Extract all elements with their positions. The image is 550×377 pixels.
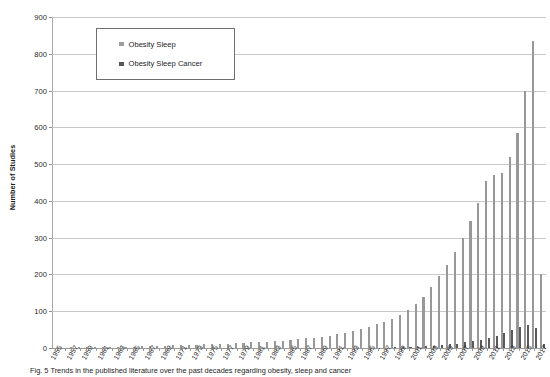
bar-obesity-sleep-2010[interactable] [485, 181, 487, 348]
figure-caption: Fig. 5 Trends in the published literatur… [30, 366, 542, 377]
bar-group-1957[interactable] [69, 17, 77, 348]
bar-group-2011[interactable] [491, 17, 499, 348]
bar-group-1984[interactable] [280, 17, 288, 348]
bar-group-1988[interactable] [311, 17, 319, 348]
bar-group-2002[interactable] [421, 17, 429, 348]
legend-item-1[interactable]: Obesity Sleep [119, 40, 234, 49]
y-tick-mark-900 [49, 17, 52, 18]
bar-group-2006[interactable] [452, 17, 460, 348]
y-tick-label-400: 400 [34, 196, 47, 205]
bar-obesity-sleep-2002[interactable] [422, 297, 424, 348]
figure-caption-text: Fig. 5 Trends in the published literatur… [30, 366, 351, 375]
bar-obesity-sleep-2006[interactable] [454, 252, 456, 348]
bar-obesity-sleep-2001[interactable] [415, 304, 417, 348]
bar-group-2012[interactable] [499, 17, 507, 348]
bar-obesity-sleep-2005[interactable] [446, 265, 448, 348]
y-tick-mark-0 [49, 348, 52, 349]
y-tick-label-500: 500 [34, 160, 47, 169]
y-axis-title: Number of Studies [2, 0, 24, 355]
y-tick-label-600: 600 [34, 123, 47, 132]
bar-obesity-sleep-2011[interactable] [493, 175, 495, 348]
y-tick-label-300: 300 [34, 233, 47, 242]
y-tick-mark-700 [49, 91, 52, 92]
bar-group-2016[interactable] [531, 17, 539, 348]
bar-group-1992[interactable] [343, 17, 351, 348]
bar-group-1985[interactable] [288, 17, 296, 348]
y-tick-label-0: 0 [43, 344, 47, 353]
bar-group-1998[interactable] [390, 17, 398, 348]
bar-group-1999[interactable] [397, 17, 405, 348]
bar-obesity-sleep-2014[interactable] [516, 133, 518, 348]
bar-group-2008[interactable] [468, 17, 476, 348]
chart-legend: Obesity SleepObesity Sleep Cancer [96, 28, 235, 80]
bar-group-2004[interactable] [437, 17, 445, 348]
bar-obesity-sleep-2012[interactable] [501, 173, 503, 348]
bar-group-1989[interactable] [319, 17, 327, 348]
bar-group-2015[interactable] [523, 17, 531, 348]
y-tick-mark-300 [49, 238, 52, 239]
y-tick-mark-400 [49, 201, 52, 202]
bar-group-2000[interactable] [405, 17, 413, 348]
bar-obesity-sleep-2004[interactable] [438, 276, 440, 348]
legend-swatch-icon-1 [119, 42, 124, 47]
bar-group-2009[interactable] [476, 17, 484, 348]
bar-obesity-sleep-2013[interactable] [509, 157, 511, 348]
bar-group-2017[interactable] [538, 17, 546, 348]
y-tick-mark-600 [49, 127, 52, 128]
bar-obesity-sleep-2003[interactable] [430, 287, 432, 348]
bar-group-1991[interactable] [335, 17, 343, 348]
bar-obesity-sleep-2007[interactable] [462, 238, 464, 348]
bar-obesity-sleep-2000[interactable] [407, 310, 409, 348]
bar-group-2014[interactable] [515, 17, 523, 348]
y-tick-label-900: 900 [34, 13, 47, 22]
bar-group-1993[interactable] [350, 17, 358, 348]
bar-group-1987[interactable] [304, 17, 312, 348]
y-tick-mark-100 [49, 311, 52, 312]
figure-container: Number of Studies 0100200300400500600700… [0, 0, 550, 377]
bar-group-2007[interactable] [460, 17, 468, 348]
bar-group-1959[interactable] [84, 17, 92, 348]
bar-obesity-sleep-2016[interactable] [532, 41, 534, 348]
bar-group-2013[interactable] [507, 17, 515, 348]
y-tick-mark-500 [49, 164, 52, 165]
bar-obesity-sleep-2009[interactable] [477, 203, 479, 348]
bar-group-1997[interactable] [382, 17, 390, 348]
y-tick-mark-200 [49, 274, 52, 275]
bar-group-1986[interactable] [296, 17, 304, 348]
bar-obesity-sleep-2008[interactable] [469, 221, 471, 348]
y-tick-label-700: 700 [34, 86, 47, 95]
bar-group-2005[interactable] [444, 17, 452, 348]
y-axis-title-label: Number of Studies [9, 145, 18, 211]
bar-obesity-sleep-2017[interactable] [540, 274, 542, 348]
bar-group-1958[interactable] [76, 17, 84, 348]
y-tick-mark-800 [49, 54, 52, 55]
legend-label-2: Obesity Sleep Cancer [129, 59, 203, 68]
bar-group-1995[interactable] [366, 17, 374, 348]
bar-group-2010[interactable] [484, 17, 492, 348]
y-tick-label-100: 100 [34, 307, 47, 316]
bar-group-1955[interactable] [53, 17, 61, 348]
legend-label-1: Obesity Sleep [129, 40, 176, 49]
bar-group-1981[interactable] [257, 17, 265, 348]
bar-group-1990[interactable] [327, 17, 335, 348]
bar-group-1983[interactable] [272, 17, 280, 348]
bar-group-1980[interactable] [249, 17, 257, 348]
bar-group-2003[interactable] [429, 17, 437, 348]
y-tick-label-200: 200 [34, 270, 47, 279]
bar-group-1996[interactable] [374, 17, 382, 348]
bar-obesity-sleep-2015[interactable] [524, 91, 526, 348]
bar-group-1994[interactable] [358, 17, 366, 348]
y-tick-label-800: 800 [34, 49, 47, 58]
legend-swatch-icon-2 [119, 62, 124, 67]
bar-group-1982[interactable] [264, 17, 272, 348]
bar-group-2001[interactable] [413, 17, 421, 348]
bar-group-1979[interactable] [241, 17, 249, 348]
legend-item-2[interactable]: Obesity Sleep Cancer [119, 59, 234, 68]
bar-group-1956[interactable] [61, 17, 69, 348]
